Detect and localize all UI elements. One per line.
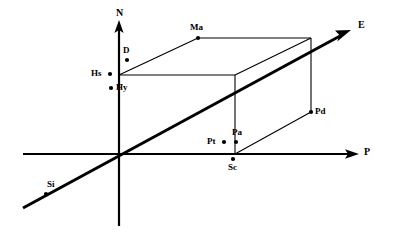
dot-pt bbox=[222, 140, 226, 144]
dot-si bbox=[44, 192, 48, 196]
point-label-pd: Pd bbox=[315, 107, 326, 116]
axis-label-e: E bbox=[358, 20, 365, 30]
point-label-hs: Hs bbox=[91, 69, 102, 78]
dot-ma bbox=[196, 36, 200, 40]
dot-hy bbox=[109, 86, 113, 90]
dot-pd bbox=[309, 110, 313, 114]
axis-label-p: P bbox=[364, 147, 370, 157]
point-label-sc: Sc bbox=[228, 163, 237, 172]
dot-d bbox=[125, 58, 129, 62]
axis-p-line bbox=[23, 149, 359, 159]
point-label-d: D bbox=[123, 46, 130, 55]
dot-hs bbox=[108, 72, 112, 76]
point-label-ma: Ma bbox=[190, 23, 203, 32]
point-label-pt: Pt bbox=[207, 137, 216, 146]
diagram-canvas: N P E D Hs Hy Ma Pd Pt Pa Sc Si bbox=[0, 0, 393, 236]
point-label-si: Si bbox=[47, 180, 55, 189]
diagram-vector-layer bbox=[0, 0, 393, 236]
data-point-dots bbox=[44, 36, 313, 196]
axis-e-line bbox=[23, 30, 351, 208]
dot-pa bbox=[234, 140, 238, 144]
point-label-hy: Hy bbox=[116, 83, 128, 92]
point-label-pa: Pa bbox=[232, 128, 242, 137]
dot-sc bbox=[231, 157, 235, 161]
axis-label-n: N bbox=[116, 8, 123, 18]
